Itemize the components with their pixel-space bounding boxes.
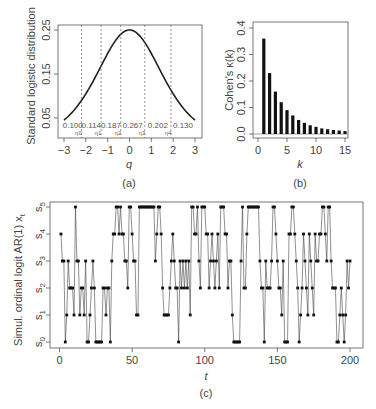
series-point xyxy=(302,233,305,236)
series-point xyxy=(306,314,309,317)
kappa-bar xyxy=(268,73,271,134)
series-point xyxy=(155,233,158,236)
series-point xyxy=(187,260,190,263)
series-point xyxy=(275,233,278,236)
series-point xyxy=(340,287,343,290)
kappa-bar xyxy=(343,131,346,134)
series-point xyxy=(334,287,337,290)
series-point xyxy=(64,341,67,344)
series-point xyxy=(160,233,163,236)
y-tick-label: 0.15 xyxy=(40,63,52,84)
series-point xyxy=(309,260,312,263)
series-point xyxy=(293,233,296,236)
series-point xyxy=(308,233,311,236)
x-tick-label: 0 xyxy=(255,144,261,156)
x-tick-label: 50 xyxy=(126,354,138,366)
series-point xyxy=(346,260,349,263)
series-point xyxy=(60,233,63,236)
panel-b-ylabel: Cohen's κ(k) xyxy=(223,49,235,110)
series-point xyxy=(100,341,103,344)
series-point xyxy=(261,287,264,290)
series-point xyxy=(325,260,328,263)
series-point xyxy=(179,260,182,263)
threshold-label: η1 xyxy=(95,130,102,136)
series-point xyxy=(203,206,206,209)
series-point xyxy=(192,206,195,209)
kappa-bar xyxy=(291,115,294,134)
panel-c-ylabel: Simul. ordinal logit AR(1) xt xyxy=(12,213,27,346)
y-tick-label: 0.25 xyxy=(40,19,52,40)
region-probability: 0.114 xyxy=(82,121,102,130)
series-point xyxy=(195,233,198,236)
series-point xyxy=(279,287,282,290)
x-tick-label: 0 xyxy=(56,354,62,366)
kappa-bar xyxy=(320,128,323,134)
x-tick-label: 10 xyxy=(310,144,322,156)
series-point xyxy=(89,314,92,317)
series-point xyxy=(225,233,228,236)
threshold-label: η3 xyxy=(138,130,145,136)
series-point xyxy=(196,206,199,209)
threshold-label: η4 xyxy=(165,130,172,136)
kappa-bar xyxy=(326,129,329,134)
x-tick-label: 1 xyxy=(148,144,154,156)
series-point xyxy=(322,206,325,209)
series-point xyxy=(273,206,276,209)
y-tick-label: 0.4 xyxy=(235,20,247,35)
kappa-bar xyxy=(309,125,312,134)
series-point xyxy=(328,206,331,209)
series-point xyxy=(317,260,320,263)
y-tick-label: 0.3 xyxy=(235,47,247,62)
series-point xyxy=(77,260,80,263)
x-tick-label: 2 xyxy=(170,144,176,156)
kappa-bar xyxy=(332,130,335,134)
series-point xyxy=(312,314,315,317)
region-probability: 0.130 xyxy=(173,121,194,130)
y-level-label: s3 xyxy=(32,255,47,266)
y-tick-label: 0.0 xyxy=(235,126,247,141)
series-point xyxy=(347,287,350,290)
panel-b-caption: (b) xyxy=(293,177,306,189)
series-point xyxy=(324,233,327,236)
series-point xyxy=(299,314,302,317)
series-point xyxy=(186,287,189,290)
x-tick-label: 0 xyxy=(126,144,132,156)
kappa-bar xyxy=(262,39,265,134)
series-point xyxy=(206,233,209,236)
panel-c-caption: (c) xyxy=(200,387,213,399)
kappa-bar xyxy=(297,120,300,134)
panel-c-simulated-series: 050100150200s0s1s2s3s4s5 xyxy=(32,201,363,366)
series-point xyxy=(119,206,122,209)
x-tick-label: 15 xyxy=(339,144,351,156)
panel-a-ylabel: Standard logistic distribution xyxy=(25,7,37,145)
series-point xyxy=(280,314,283,317)
series-point xyxy=(87,341,90,344)
region-probability: 0.267 xyxy=(123,121,144,130)
series-point xyxy=(212,260,215,263)
series-point xyxy=(176,287,179,290)
kappa-bar xyxy=(285,110,288,134)
y-level-label: s2 xyxy=(32,282,47,293)
region-probability: 0.187 xyxy=(101,121,122,130)
panel-a-caption: (a) xyxy=(122,177,135,189)
series-point xyxy=(209,260,212,263)
series-point xyxy=(81,287,84,290)
series-point xyxy=(153,206,156,209)
x-tick-label: 200 xyxy=(341,354,359,366)
series-point xyxy=(158,206,161,209)
series-point xyxy=(103,287,106,290)
series-point xyxy=(71,287,74,290)
series-point xyxy=(62,260,65,263)
series-point xyxy=(337,341,340,344)
series-point xyxy=(116,206,119,209)
series-point xyxy=(218,287,221,290)
region-probability: 0.202 xyxy=(148,121,169,130)
series-point xyxy=(113,233,116,236)
series-point xyxy=(298,341,301,344)
series-point xyxy=(330,260,333,263)
panel-c-frame xyxy=(50,202,363,348)
series-point xyxy=(109,341,112,344)
series-point xyxy=(276,260,279,263)
series-point xyxy=(167,314,170,317)
series-point xyxy=(338,314,341,317)
